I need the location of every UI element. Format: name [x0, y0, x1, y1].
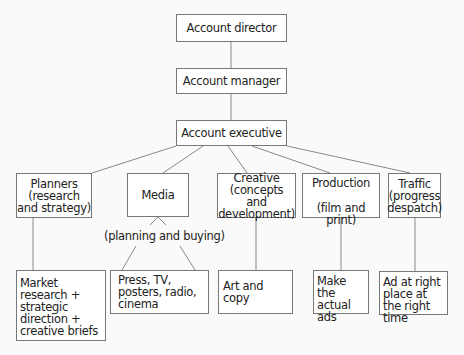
node-media: Media [127, 173, 189, 217]
media-sublabel: (planning and buying) [104, 229, 225, 243]
production-sublabel: (film and print) [303, 202, 379, 226]
node-label: Production [303, 177, 379, 189]
node-account-executive: Account executive [176, 120, 287, 146]
node-label: Account executive [181, 127, 282, 139]
node-label: Traffic (progress despatch) [387, 178, 442, 214]
node-label: Art and copy [223, 280, 288, 304]
node-label: Media [141, 189, 174, 201]
node-media-output: Press, TV, posters, radio, cinema [110, 270, 209, 314]
node-account-director: Account director [176, 14, 287, 42]
node-label: Creative (concepts and development) [218, 172, 295, 220]
node-creative-output: Art and copy [218, 270, 293, 314]
node-production-output: Make the actual ads [313, 270, 369, 314]
node-traffic: Traffic (progress despatch) [388, 173, 441, 218]
node-production: Production (film and print) [302, 173, 380, 218]
node-label: Account director [187, 22, 277, 34]
node-planners-output: Market research + strategic direction + … [16, 270, 106, 341]
node-creative: Creative (concepts and development) [217, 173, 296, 218]
node-label: Planners (research and strategy) [17, 178, 91, 214]
node-planners: Planners (research and strategy) [16, 173, 92, 218]
node-label: Account manager [183, 75, 280, 87]
node-traffic-output: Ad at right place at the right time [379, 271, 448, 315]
node-account-manager: Account manager [176, 68, 287, 94]
node-label: Press, TV, posters, radio, cinema [118, 274, 204, 310]
node-label: Market research + strategic direction + … [20, 276, 98, 338]
